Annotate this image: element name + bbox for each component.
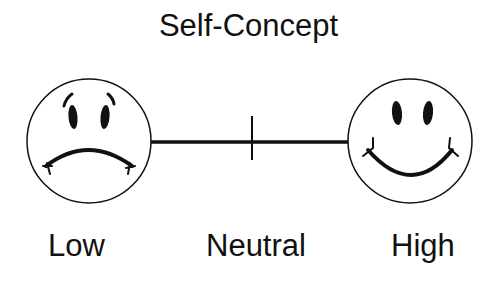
label-low: Low	[48, 228, 105, 264]
label-neutral: Neutral	[206, 228, 306, 264]
label-high: High	[391, 228, 455, 264]
happy-face-icon	[348, 79, 472, 203]
scale-line	[150, 116, 348, 160]
sad-face-icon	[27, 79, 151, 203]
